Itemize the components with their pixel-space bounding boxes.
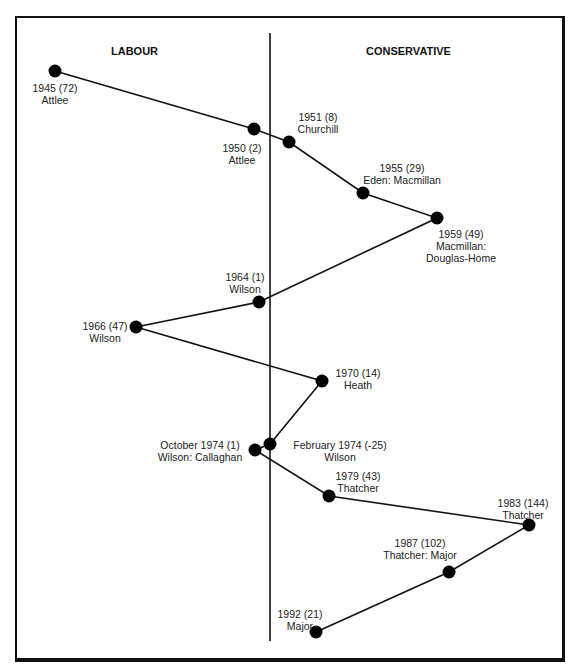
election-label-line2: Heath — [322, 379, 394, 391]
election-label-line1: 1951 (8) — [288, 111, 348, 123]
election-label-line2: Wilson — [215, 283, 275, 295]
election-label-line1: October 1974 (1) — [150, 439, 250, 451]
election-label-line2: Wilson — [280, 451, 400, 463]
election-label: 1955 (29)Eden: Macmillan — [352, 162, 452, 186]
election-label-line3: Douglas-Home — [416, 252, 506, 264]
election-label-line2: Major — [270, 620, 330, 632]
election-label-line1: 1970 (14) — [322, 367, 394, 379]
election-label: February 1974 (-25)Wilson — [280, 439, 400, 463]
election-label: 1945 (72)Attlee — [20, 82, 90, 106]
election-label: 1983 (144)Thatcher — [488, 497, 558, 521]
election-label-line1: 1950 (2) — [212, 142, 272, 154]
election-label: October 1974 (1)Wilson: Callaghan — [150, 439, 250, 463]
election-label: 1951 (8)Churchill — [288, 111, 348, 135]
election-label: 1987 (102)Thatcher: Major — [375, 537, 465, 561]
election-label-line1: February 1974 (-25) — [280, 439, 400, 451]
election-label-line1: 1959 (49) — [416, 228, 506, 240]
election-label-line1: 1966 (47) — [75, 320, 135, 332]
election-label-line2: Wilson — [75, 332, 135, 344]
election-label-line1: 1983 (144) — [488, 497, 558, 509]
election-label-line2: Thatcher — [488, 509, 558, 521]
election-label-line1: 1979 (43) — [308, 470, 408, 482]
election-label-line1: 1964 (1) — [215, 271, 275, 283]
labour-heading: LABOUR — [111, 45, 158, 57]
election-label: 1959 (49)Macmillan:Douglas-Home — [416, 228, 506, 264]
election-dot — [49, 65, 62, 78]
election-label-line2: Thatcher — [308, 482, 408, 494]
election-label: 1979 (43)Thatcher — [308, 470, 408, 494]
election-label-line1: 1955 (29) — [352, 162, 452, 174]
election-label-line2: Churchill — [288, 123, 348, 135]
election-label: 1970 (14)Heath — [322, 367, 394, 391]
election-label: 1964 (1)Wilson — [215, 271, 275, 295]
election-dot — [249, 444, 262, 457]
election-label-line1: 1987 (102) — [375, 537, 465, 549]
election-label-line2: Eden: Macmillan — [352, 174, 452, 186]
election-dot — [283, 136, 296, 149]
election-label: 1966 (47)Wilson — [75, 320, 135, 344]
election-label: 1992 (21)Major — [270, 608, 330, 632]
election-dot — [443, 566, 456, 579]
election-label-line2: Attlee — [20, 94, 90, 106]
election-dot — [264, 438, 277, 451]
election-label-line2: Wilson: Callaghan — [150, 451, 250, 463]
conservative-heading: CONSERVATIVE — [366, 45, 451, 57]
election-label: 1950 (2)Attlee — [212, 142, 272, 166]
election-label-line2: Thatcher: Major — [375, 549, 465, 561]
election-label-line1: 1992 (21) — [270, 608, 330, 620]
election-label-line2: Macmillan: — [416, 240, 506, 252]
election-dot — [357, 187, 370, 200]
election-dot — [253, 296, 266, 309]
election-dot — [248, 123, 261, 136]
election-dot — [431, 212, 444, 225]
election-label-line1: 1945 (72) — [20, 82, 90, 94]
election-label-line2: Attlee — [212, 154, 272, 166]
